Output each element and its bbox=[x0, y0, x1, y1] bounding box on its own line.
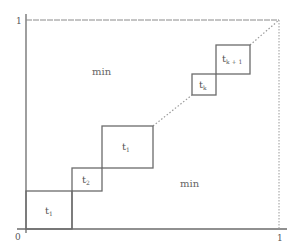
box-1-label: t1 bbox=[45, 205, 53, 217]
staircase-diagram: 0 1 1 min min t1 t2 t1 tk tk + 1 bbox=[0, 0, 301, 252]
region-min-lower: min bbox=[180, 178, 200, 189]
x-right-label: 1 bbox=[277, 233, 283, 243]
diagonal-dotted-top bbox=[250, 20, 279, 45]
box-3-label: t1 bbox=[122, 141, 130, 153]
box-k-label: tk bbox=[199, 79, 207, 91]
region-min-upper: min bbox=[92, 66, 112, 77]
origin-label: 0 bbox=[15, 232, 21, 242]
diagonal-dotted-mid bbox=[153, 95, 192, 126]
y-top-label: 1 bbox=[16, 16, 22, 26]
box-2-label: t2 bbox=[82, 174, 90, 186]
box-k-plus-1-label: tk + 1 bbox=[222, 53, 242, 65]
